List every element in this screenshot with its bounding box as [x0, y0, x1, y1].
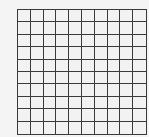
- grid-cell[interactable]: [69, 84, 82, 96]
- grid-cell[interactable]: [56, 84, 69, 96]
- grid-cell[interactable]: [95, 47, 108, 59]
- grid-cell[interactable]: [133, 47, 146, 59]
- grid-cell[interactable]: [82, 35, 95, 47]
- grid-cell[interactable]: [120, 72, 133, 84]
- grid-cell[interactable]: [120, 22, 133, 34]
- grid-cell[interactable]: [120, 84, 133, 96]
- grid-cell[interactable]: [56, 47, 69, 59]
- grid-cell[interactable]: [18, 109, 31, 121]
- grid-cell[interactable]: [108, 60, 121, 72]
- grid-cell[interactable]: [31, 109, 44, 121]
- grid-cell[interactable]: [31, 84, 44, 96]
- grid-cell[interactable]: [95, 22, 108, 34]
- grid-cell[interactable]: [56, 10, 69, 22]
- grid-cell[interactable]: [69, 60, 82, 72]
- grid-cell[interactable]: [95, 122, 108, 134]
- grid-cell[interactable]: [56, 122, 69, 134]
- grid-cell[interactable]: [56, 72, 69, 84]
- grid-cell[interactable]: [108, 122, 121, 134]
- grid-cell[interactable]: [120, 47, 133, 59]
- grid-cell[interactable]: [69, 10, 82, 22]
- grid-cell[interactable]: [108, 84, 121, 96]
- grid-cell[interactable]: [31, 10, 44, 22]
- grid-cell[interactable]: [120, 109, 133, 121]
- grid-cell[interactable]: [44, 60, 57, 72]
- grid-cell[interactable]: [133, 97, 146, 109]
- grid-cell[interactable]: [18, 35, 31, 47]
- grid-cell[interactable]: [69, 35, 82, 47]
- grid-cell[interactable]: [95, 10, 108, 22]
- grid-cell[interactable]: [69, 122, 82, 134]
- grid-cell[interactable]: [44, 122, 57, 134]
- grid-cell[interactable]: [133, 60, 146, 72]
- grid-cell[interactable]: [44, 109, 57, 121]
- grid-cell[interactable]: [133, 122, 146, 134]
- grid-cell[interactable]: [120, 122, 133, 134]
- grid-cell[interactable]: [18, 10, 31, 22]
- grid-cell[interactable]: [82, 122, 95, 134]
- grid-cell[interactable]: [69, 22, 82, 34]
- grid-cell[interactable]: [31, 122, 44, 134]
- grid-cell[interactable]: [44, 35, 57, 47]
- grid-cell[interactable]: [69, 109, 82, 121]
- grid-cell[interactable]: [108, 47, 121, 59]
- grid-cell[interactable]: [31, 35, 44, 47]
- grid-cell[interactable]: [44, 84, 57, 96]
- grid-cell[interactable]: [82, 60, 95, 72]
- grid-cell[interactable]: [108, 22, 121, 34]
- grid-cell[interactable]: [18, 97, 31, 109]
- grid-cell[interactable]: [95, 109, 108, 121]
- grid-cell[interactable]: [82, 47, 95, 59]
- grid-cell[interactable]: [120, 35, 133, 47]
- grid-cell[interactable]: [56, 97, 69, 109]
- grid-cell[interactable]: [120, 97, 133, 109]
- grid-cell[interactable]: [95, 84, 108, 96]
- grid-cell[interactable]: [95, 35, 108, 47]
- grid-cell[interactable]: [44, 22, 57, 34]
- grid-cell[interactable]: [108, 109, 121, 121]
- grid-cell[interactable]: [69, 47, 82, 59]
- grid-cell[interactable]: [82, 10, 95, 22]
- grid-cell[interactable]: [56, 109, 69, 121]
- grid-cell[interactable]: [44, 97, 57, 109]
- grid-cell[interactable]: [95, 97, 108, 109]
- grid-cell[interactable]: [82, 22, 95, 34]
- grid-cell[interactable]: [82, 97, 95, 109]
- grid-cell[interactable]: [69, 97, 82, 109]
- grid-cell[interactable]: [82, 109, 95, 121]
- grid-cell[interactable]: [133, 72, 146, 84]
- grid-cell[interactable]: [56, 60, 69, 72]
- grid-cell[interactable]: [95, 60, 108, 72]
- grid-cell[interactable]: [133, 35, 146, 47]
- grid-cell[interactable]: [31, 22, 44, 34]
- grid-cell[interactable]: [31, 72, 44, 84]
- grid-cell[interactable]: [56, 22, 69, 34]
- grid-cell[interactable]: [18, 47, 31, 59]
- grid-cell[interactable]: [82, 72, 95, 84]
- grid-cell[interactable]: [44, 47, 57, 59]
- grid-cell[interactable]: [56, 35, 69, 47]
- grid-cell[interactable]: [18, 84, 31, 96]
- grid-cell[interactable]: [31, 47, 44, 59]
- grid-cell[interactable]: [82, 84, 95, 96]
- grid-cell[interactable]: [133, 10, 146, 22]
- grid-cell[interactable]: [133, 84, 146, 96]
- grid-cell[interactable]: [18, 22, 31, 34]
- grid-cell[interactable]: [108, 10, 121, 22]
- grid-cell[interactable]: [95, 72, 108, 84]
- grid-cell[interactable]: [31, 97, 44, 109]
- grid-cell[interactable]: [44, 72, 57, 84]
- grid-cell[interactable]: [133, 109, 146, 121]
- grid-cell[interactable]: [108, 97, 121, 109]
- grid-cell[interactable]: [44, 10, 57, 22]
- grid-cell[interactable]: [18, 122, 31, 134]
- grid-cell[interactable]: [133, 22, 146, 34]
- grid-cell[interactable]: [18, 72, 31, 84]
- grid-cell[interactable]: [108, 35, 121, 47]
- grid-cell[interactable]: [120, 60, 133, 72]
- grid-cell[interactable]: [69, 72, 82, 84]
- grid-cell[interactable]: [18, 60, 31, 72]
- grid-cell[interactable]: [108, 72, 121, 84]
- grid-cell[interactable]: [120, 10, 133, 22]
- grid-cell[interactable]: [31, 60, 44, 72]
